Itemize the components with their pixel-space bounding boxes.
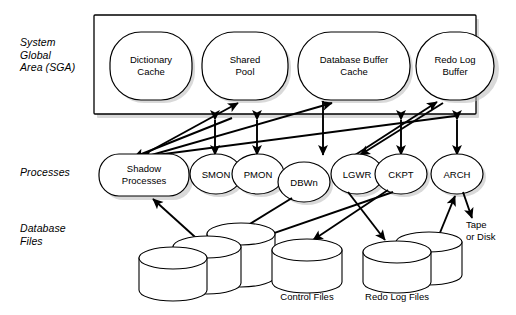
database-file-cylinder-front bbox=[139, 247, 207, 301]
caption-control-files: Control Files bbox=[280, 291, 334, 302]
process-node-dbwn[interactable]: DBWn bbox=[278, 162, 333, 205]
edge-redo-buffer-to-shadow bbox=[141, 116, 455, 157]
sga-node-dictionary-cache[interactable]: Dictionary Cache bbox=[110, 32, 195, 103]
label-tape-or-disk-line1: Tape bbox=[466, 219, 487, 230]
sga-node-database-buffer-cache[interactable]: Database Buffer Cache bbox=[298, 32, 413, 103]
process-node-ckpt[interactable]: CKPT bbox=[375, 154, 430, 197]
architecture-diagram: Dictionary Cache Shared Pool Database Bu… bbox=[0, 0, 516, 315]
edge-lgwr-to-redo-log-files bbox=[348, 192, 385, 240]
control-files-cylinder bbox=[272, 239, 342, 293]
process-node-arch[interactable]: ARCH bbox=[431, 154, 486, 197]
redo-log-files-cylinder-front bbox=[363, 241, 431, 293]
sga-node-redo-log-buffer[interactable]: Redo Log Buffer bbox=[416, 32, 499, 103]
process-node-shadow-processes[interactable]: Shadow Processes bbox=[99, 154, 193, 200]
diagram-canvas: System Global Area (SGA) Processes Datab… bbox=[0, 0, 516, 315]
sga-node-shared-pool[interactable]: Shared Pool bbox=[202, 32, 291, 103]
label-tape-or-disk-line2: or Disk bbox=[466, 231, 496, 242]
caption-redo-log-files: Redo Log Files bbox=[365, 291, 429, 302]
